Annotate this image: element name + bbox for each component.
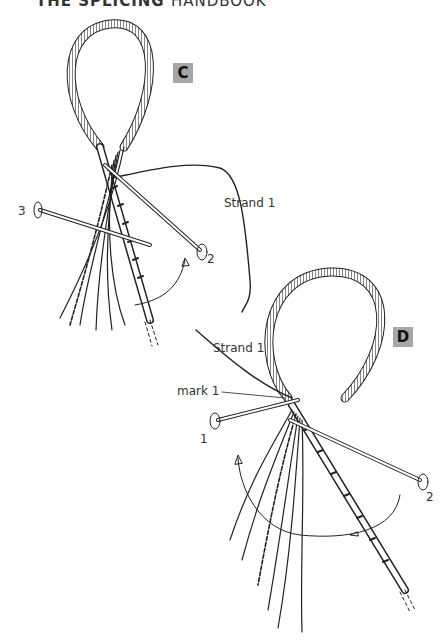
figure-d-fid-2-label: 2 xyxy=(426,490,434,504)
figure-d-drawing xyxy=(196,272,428,632)
figure-d-badge: D xyxy=(393,327,413,347)
figure-d-fid-1-label: 1 xyxy=(200,432,208,446)
figure-c-fid-2-label: 2 xyxy=(207,252,215,266)
figure-c-drawing xyxy=(34,24,250,346)
splice-illustration xyxy=(0,0,448,644)
figure-d-mark-label: mark 1 xyxy=(177,384,219,398)
figure-d-strand-label: Strand 1 xyxy=(213,341,264,355)
figure-c-badge: C xyxy=(173,63,193,83)
figure-c-strand-label: Strand 1 xyxy=(224,196,275,210)
figure-c-fid-3-label: 3 xyxy=(18,204,26,218)
